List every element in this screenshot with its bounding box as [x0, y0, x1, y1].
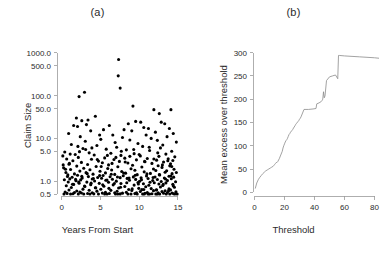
- data-point: [159, 146, 162, 149]
- panel-a-y-tick-label: 1000.0: [27, 49, 52, 58]
- data-point: [101, 183, 104, 186]
- data-point: [139, 190, 142, 193]
- data-point: [120, 150, 123, 153]
- data-point: [145, 133, 148, 136]
- panel-a-x-tick-label: 10: [135, 203, 144, 212]
- data-point: [83, 185, 86, 188]
- data-point: [96, 158, 99, 161]
- panel-a-x-tick-label: 5: [98, 203, 103, 212]
- data-point: [122, 128, 125, 131]
- data-point: [76, 125, 79, 128]
- data-point: [111, 133, 114, 136]
- data-point: [92, 177, 95, 180]
- data-point: [127, 188, 130, 191]
- data-point: [162, 161, 165, 164]
- data-point: [121, 136, 124, 139]
- data-point: [172, 184, 175, 187]
- panel-a-y-tick-label: 5.0: [40, 147, 52, 156]
- data-point: [142, 182, 145, 185]
- data-point: [143, 170, 146, 173]
- data-point: [66, 173, 69, 176]
- data-point: [88, 168, 91, 171]
- data-point: [147, 177, 150, 180]
- data-point: [117, 74, 120, 77]
- data-point: [122, 174, 125, 177]
- data-point: [135, 158, 138, 161]
- data-point: [80, 119, 83, 122]
- data-point: [67, 189, 70, 192]
- data-point: [86, 118, 89, 121]
- panel-a-y-tick-label: 50.0: [35, 105, 51, 114]
- data-point: [76, 174, 79, 177]
- data-point: [168, 192, 171, 195]
- data-point: [81, 147, 84, 150]
- data-point: [155, 189, 158, 192]
- data-point: [90, 182, 93, 185]
- figure-panel-container: (a) Claim Size Years From Start 0.51.05.…: [0, 0, 391, 260]
- data-point: [137, 187, 140, 190]
- data-point: [162, 192, 165, 195]
- data-point: [70, 143, 73, 146]
- data-point: [168, 127, 171, 130]
- data-point: [107, 163, 110, 166]
- data-point: [98, 133, 101, 136]
- data-point: [160, 121, 163, 124]
- data-point: [88, 192, 91, 195]
- data-point: [100, 177, 103, 180]
- data-point: [115, 146, 118, 149]
- data-point: [88, 189, 91, 192]
- data-point: [150, 137, 153, 140]
- data-point: [103, 192, 106, 195]
- data-point: [107, 187, 110, 190]
- data-point: [93, 153, 96, 156]
- data-point: [63, 178, 66, 181]
- data-point: [65, 184, 68, 187]
- data-point: [75, 165, 78, 168]
- data-point: [119, 176, 122, 179]
- data-point: [171, 159, 174, 162]
- data-point: [131, 164, 134, 167]
- data-point: [159, 185, 162, 188]
- data-point: [176, 192, 179, 195]
- data-point: [128, 138, 131, 141]
- data-point: [80, 175, 83, 178]
- data-point: [113, 182, 116, 185]
- data-point: [95, 144, 98, 147]
- data-point: [158, 173, 161, 176]
- data-point: [85, 181, 88, 184]
- data-point: [106, 167, 109, 170]
- data-point: [109, 152, 112, 155]
- data-point: [88, 151, 91, 154]
- data-point: [131, 105, 134, 108]
- data-point: [174, 180, 177, 183]
- data-point: [164, 153, 167, 156]
- data-point: [87, 175, 90, 178]
- data-point: [118, 160, 121, 163]
- data-point: [133, 152, 136, 155]
- panel-a-x-tick-label: 15: [173, 203, 182, 212]
- data-point: [90, 158, 93, 161]
- panel-b-plot-area: 050100150200250300020406080: [196, 0, 391, 260]
- data-point: [69, 168, 72, 171]
- data-point: [113, 173, 116, 176]
- data-point: [152, 189, 155, 192]
- data-point: [150, 162, 153, 165]
- data-point: [62, 192, 65, 195]
- data-point: [86, 163, 89, 166]
- panel-b-y-tick-label: 250: [234, 72, 248, 81]
- panel-a-y-tick-label: 0.5: [40, 190, 52, 199]
- data-point: [116, 175, 119, 178]
- data-point: [99, 138, 102, 141]
- data-point: [147, 192, 150, 195]
- data-point: [85, 123, 88, 126]
- panel-a-y-tick-label: 10.0: [35, 134, 51, 143]
- data-point: [122, 171, 125, 174]
- data-point: [66, 192, 69, 195]
- data-point: [97, 192, 100, 195]
- data-point: [77, 181, 80, 184]
- data-point: [157, 155, 160, 158]
- data-point: [130, 129, 133, 132]
- data-point: [72, 124, 75, 127]
- data-point: [110, 169, 113, 172]
- data-point: [165, 192, 168, 195]
